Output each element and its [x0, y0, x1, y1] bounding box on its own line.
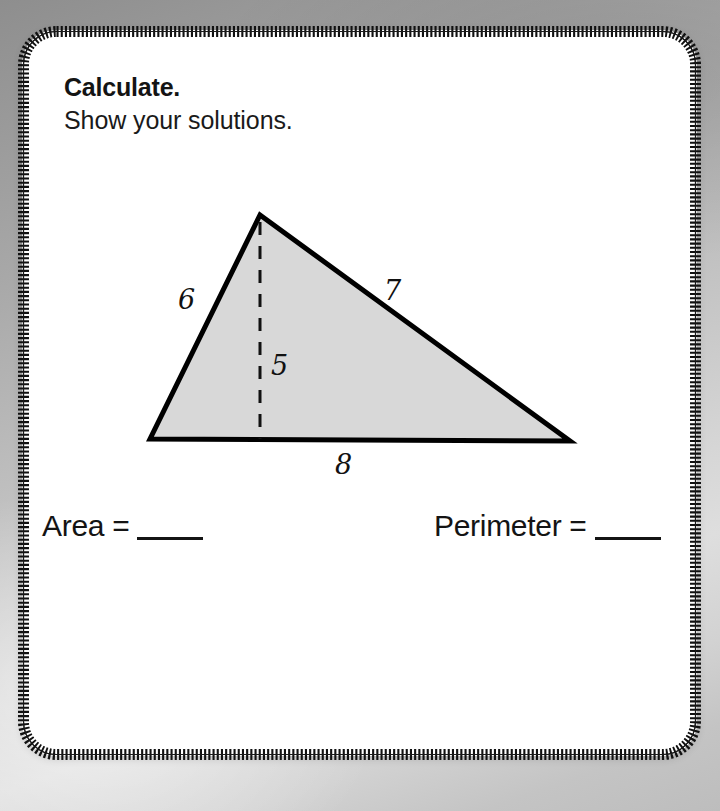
perimeter-answer[interactable]: Perimeter =: [434, 509, 661, 543]
perimeter-label: Perimeter =: [434, 509, 587, 542]
label-left-side: 6: [178, 284, 195, 315]
label-height: 5: [271, 350, 288, 381]
triangle-svg: [112, 170, 612, 500]
instruction-title: Calculate.: [64, 73, 180, 102]
label-base: 8: [335, 449, 352, 480]
triangle-shape: [150, 215, 570, 441]
perimeter-blank-input[interactable]: [595, 537, 661, 540]
area-label: Area =: [42, 509, 129, 542]
instruction-subtitle: Show your solutions.: [64, 106, 293, 135]
answer-row: Area = Perimeter =: [22, 505, 697, 575]
triangle-figure: 6 7 5 8: [112, 170, 612, 500]
worksheet-page: Calculate. Show your solutions. 6 7 5 8 …: [0, 0, 720, 811]
label-right-side: 7: [384, 275, 401, 306]
area-blank-input[interactable]: [137, 537, 203, 540]
area-answer[interactable]: Area =: [42, 509, 203, 543]
worksheet-card: Calculate. Show your solutions. 6 7 5 8 …: [22, 30, 697, 756]
